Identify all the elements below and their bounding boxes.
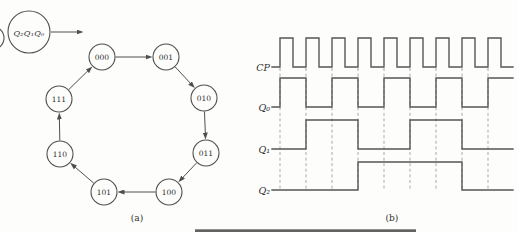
timing-diagram: CPQ₀Q₁Q₂ (b)	[256, 38, 513, 223]
state-label: 101	[97, 188, 111, 197]
caption-b: (b)	[386, 213, 399, 223]
signal-label-q0: Q₀	[258, 102, 270, 113]
waveform-q1	[272, 120, 513, 149]
waveform-q2	[272, 162, 513, 190]
waveform-q0	[272, 78, 513, 107]
cropped-caption-remnant	[195, 229, 416, 232]
state-label: 100	[162, 188, 177, 197]
state-diagram: Q₂Q₁Q₀ 000001010011100101110111 (a)	[0, 11, 219, 223]
waveforms	[272, 38, 513, 190]
signal-label-cp: CP	[256, 62, 270, 73]
state-cycle: 000001010011100101110111	[46, 44, 219, 205]
state-label: 010	[197, 94, 212, 103]
transition-arrow	[75, 167, 94, 183]
transition-arrow	[69, 71, 88, 90]
transition-arrow	[175, 67, 190, 83]
signal-label-q2: Q₂	[258, 185, 270, 196]
signal-labels: CPQ₀Q₁Q₂	[256, 62, 270, 196]
state-label: 111	[52, 95, 66, 104]
transition-arrow	[183, 163, 197, 178]
caption-a: (a)	[131, 213, 143, 223]
state-label: 001	[159, 53, 173, 62]
waveform-cp	[272, 38, 513, 67]
state-label: 000	[95, 53, 110, 62]
signal-label-q1: Q₁	[258, 144, 270, 155]
bit-order-label: Q₂Q₁Q₀	[13, 29, 45, 38]
state-transitions	[59, 57, 205, 192]
state-label: 110	[53, 150, 68, 159]
figure-stage: Q₂Q₁Q₀ 000001010011100101110111 (a) CPQ₀…	[0, 0, 517, 232]
edge-artifact-arc	[0, 27, 4, 50]
state-label: 011	[199, 149, 213, 158]
figure-canvas: Q₂Q₁Q₀ 000001010011100101110111 (a) CPQ₀…	[0, 0, 517, 232]
transition-arrow	[205, 112, 206, 134]
